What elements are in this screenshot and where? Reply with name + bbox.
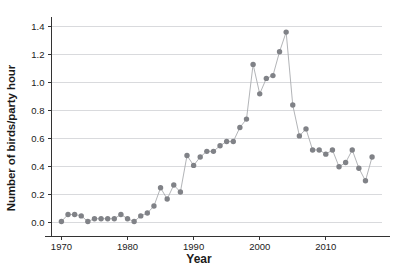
x-tick-labels-group: 19701980199020002010 <box>51 237 337 252</box>
data-point: 1995: 0.58 <box>224 139 229 144</box>
data-point: 1985: 0.25 <box>158 185 163 190</box>
data-point: 1974: 0.01 <box>85 219 90 224</box>
y-tick-label: 0.2 <box>31 189 44 200</box>
data-point: 1989: 0.48 <box>184 153 189 158</box>
data-point: 2008: 0.52 <box>310 147 315 152</box>
data-point: 2006: 0.62 <box>297 133 302 138</box>
data-point: 2001: 1.03 <box>264 76 269 81</box>
data-point: 2011: 0.52 <box>330 147 335 152</box>
axis-lines-group <box>45 17 391 237</box>
data-point: 1980: 0.03 <box>125 216 130 221</box>
x-tick-label: 1980 <box>117 241 138 252</box>
data-point: 1987: 0.27 <box>171 182 176 187</box>
data-line-group <box>61 32 372 221</box>
data-point: 1992: 0.51 <box>204 149 209 154</box>
chart-plot-area: 0.00.20.40.60.81.01.21.4 197019801990200… <box>0 0 398 276</box>
data-point: 1999: 1.13 <box>250 62 255 67</box>
data-point: 1988: 0.22 <box>178 189 183 194</box>
data-point: 1978: 0.03 <box>112 216 117 221</box>
data-point: 2017: 0.47 <box>369 154 374 159</box>
data-point: 1993: 0.51 <box>211 149 216 154</box>
y-tick-label: 0.4 <box>31 161 44 172</box>
data-point: 1982: 0.05 <box>138 213 143 218</box>
data-point: 1975: 0.03 <box>92 216 97 221</box>
data-point: 1984: 0.12 <box>151 203 156 208</box>
chart-figure: Number of birds/party hour Year 0.00.20.… <box>0 0 398 276</box>
data-point: 2002: 1.05 <box>270 73 275 78</box>
y-tick-labels-group: 0.00.20.40.60.81.01.21.4 <box>31 21 51 228</box>
data-point: 1990: 0.41 <box>191 163 196 168</box>
data-point: 1983: 0.07 <box>145 210 150 215</box>
data-point: 2013: 0.43 <box>343 160 348 165</box>
data-point: 1972: 0.06 <box>72 212 77 217</box>
data-point: 1976: 0.03 <box>98 216 103 221</box>
data-point: 1970: 0.01 <box>59 219 64 224</box>
x-tick-label: 2000 <box>249 241 270 252</box>
data-point: 2000: 0.92 <box>257 91 262 96</box>
x-tick-label: 2010 <box>315 241 336 252</box>
data-point: 2016: 0.3 <box>363 178 368 183</box>
data-point: 1979: 0.06 <box>118 212 123 217</box>
y-tick-label: 1.4 <box>31 21 44 32</box>
data-point: 2003: 1.22 <box>277 49 282 54</box>
data-point: 1994: 0.55 <box>217 143 222 148</box>
data-point: 2004: 1.36 <box>283 29 288 34</box>
data-point: 1998: 0.74 <box>244 116 249 121</box>
y-tick-label: 1.2 <box>31 49 44 60</box>
data-point: 2005: 0.84 <box>290 102 295 107</box>
y-tick-label: 1.0 <box>31 77 44 88</box>
data-point: 2012: 0.4 <box>336 164 341 169</box>
y-tick-label: 0.0 <box>31 217 44 228</box>
data-point: 1977: 0.03 <box>105 216 110 221</box>
data-point: 1981: 0.01 <box>131 219 136 224</box>
data-point: 1997: 0.68 <box>237 125 242 130</box>
data-point: 2009: 0.52 <box>317 147 322 152</box>
x-tick-label: 1970 <box>51 241 72 252</box>
data-point: 1986: 0.17 <box>164 196 169 201</box>
data-point: 2014: 0.52 <box>350 147 355 152</box>
data-point: 1991: 0.47 <box>198 154 203 159</box>
data-point: 2015: 0.39 <box>356 165 361 170</box>
data-point: 2010: 0.49 <box>323 151 328 156</box>
y-tick-label: 0.8 <box>31 105 44 116</box>
gridlines-group <box>52 27 383 223</box>
data-point: 1996: 0.58 <box>231 139 236 144</box>
data-point: 1971: 0.06 <box>65 212 70 217</box>
data-point: 2007: 0.67 <box>303 126 308 131</box>
x-tick-label: 1990 <box>183 241 204 252</box>
data-series-line <box>61 32 372 221</box>
y-tick-label: 0.6 <box>31 133 44 144</box>
data-point: 1973: 0.05 <box>79 213 84 218</box>
